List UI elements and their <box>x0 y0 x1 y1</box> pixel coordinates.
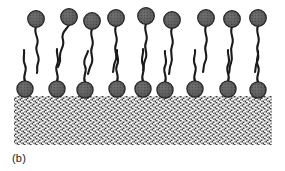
substrate-block <box>14 96 272 145</box>
surfactant-tail <box>227 50 229 81</box>
surfactant-head-shading <box>49 81 65 97</box>
surfactant-head-shading <box>84 13 100 29</box>
surfactant-head-shading <box>77 82 93 98</box>
surfactant-tail <box>169 28 173 74</box>
lower-layer-heads <box>17 81 266 98</box>
surfactant-head-shading <box>109 81 125 97</box>
surfactant-tail <box>143 24 147 70</box>
surfactant-head-shading <box>220 81 236 97</box>
surfactant-tail <box>58 25 69 67</box>
surfactant-tail <box>35 27 39 73</box>
surfactant-tail <box>164 51 166 82</box>
surfactant-tail <box>203 26 207 72</box>
upper-layer-heads <box>28 8 266 29</box>
surfactant-head-shading <box>108 10 124 26</box>
upper-layer-tails <box>35 24 259 74</box>
surfactant-head-shading <box>138 8 154 24</box>
surfactant-head-shading <box>224 11 240 27</box>
surfactant-head-shading <box>164 12 180 28</box>
surfactant-head-shading <box>17 81 33 97</box>
surfactant-tail <box>194 50 196 81</box>
surfactant-head-shading <box>157 82 173 98</box>
panel-label: (b) <box>12 152 26 164</box>
surfactant-head-shading <box>250 82 266 98</box>
surfactant-head-shading <box>61 9 77 25</box>
figure-panel-b: (b) <box>0 0 285 171</box>
surfactant-tail <box>229 27 233 73</box>
surfactant-tail <box>84 51 88 82</box>
surfactant-head-shading <box>250 10 266 26</box>
surfactant-head-shading <box>135 81 151 97</box>
surfactant-bilayer-diagram <box>0 0 285 171</box>
surfactant-head-shading <box>198 10 214 26</box>
surfactant-tail <box>24 50 26 81</box>
surfactant-head-shading <box>28 11 44 27</box>
surfactant-head-shading <box>187 81 203 97</box>
substrate-fill <box>14 96 272 145</box>
